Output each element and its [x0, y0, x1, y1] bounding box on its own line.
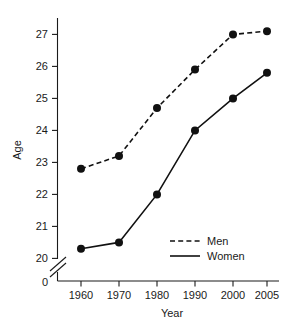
series-men-line-path	[81, 31, 267, 169]
data-point-women	[77, 245, 85, 253]
series-women-line-path	[81, 73, 267, 249]
data-point-men	[115, 152, 123, 160]
y-tick-label: 22	[36, 188, 48, 200]
data-point-women	[191, 126, 199, 134]
data-point-women	[115, 238, 123, 246]
y-tick-label-zero: 0	[42, 276, 48, 288]
x-tick-label: 1970	[107, 289, 131, 301]
data-point-women	[263, 69, 271, 77]
y-tick-label: 20	[36, 252, 48, 264]
x-tick-label: 2000	[221, 289, 245, 301]
y-tick-label: 26	[36, 60, 48, 72]
y-tick-label: 21	[36, 220, 48, 232]
data-point-men	[229, 30, 237, 38]
y-tick-label: 24	[36, 124, 48, 136]
data-point-men	[153, 104, 161, 112]
chart-canvas: 27 26 25 24 23 22 21 20 0	[0, 0, 288, 325]
x-axis-title: Year	[161, 307, 184, 319]
y-tick-label: 27	[36, 28, 48, 40]
data-point-men	[263, 27, 271, 35]
x-tick-label: 2005	[255, 289, 279, 301]
y-tick-label: 25	[36, 92, 48, 104]
series-men	[77, 27, 271, 173]
x-axis-ticks: 1960 1970 1980 1990 2000 2005	[69, 281, 279, 301]
legend-label-men: Men	[207, 235, 228, 247]
data-point-men	[77, 165, 85, 173]
line-chart: 27 26 25 24 23 22 21 20 0	[0, 0, 288, 325]
y-axis-title: Age	[11, 140, 23, 160]
chart-legend: Men Women	[170, 235, 245, 262]
data-point-men	[191, 66, 199, 74]
x-tick-label: 1990	[183, 289, 207, 301]
legend-label-women: Women	[207, 250, 245, 262]
data-point-women	[153, 190, 161, 198]
x-tick-label: 1960	[69, 289, 93, 301]
x-tick-label: 1980	[145, 289, 169, 301]
y-tick-label: 23	[36, 156, 48, 168]
data-point-women	[229, 94, 237, 102]
y-axis-ticks: 27 26 25 24 23 22 21 20 0	[36, 28, 58, 287]
